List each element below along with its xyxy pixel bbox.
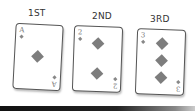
diamond-icon: [19, 34, 23, 38]
playing-card-three-of-diamonds[interactable]: 3 3: [135, 28, 186, 96]
playing-card-ace-of-diamonds[interactable]: A A: [12, 23, 63, 91]
diamond-icon: [52, 75, 56, 79]
diamond-pip-icon: [155, 71, 168, 84]
diamond-icon: [141, 40, 145, 44]
diamond-pip-icon: [155, 54, 168, 67]
card-label-2nd: 2ND: [92, 11, 112, 21]
card-corner-top: A: [19, 27, 25, 38]
card-corner-top: 3: [141, 32, 146, 43]
card-label-1st: 1ST: [28, 8, 46, 18]
diamond-icon: [78, 37, 82, 41]
diamond-pip-icon: [91, 67, 104, 80]
card-corner-bottom: A: [51, 76, 57, 87]
diamond-pip-icon: [156, 37, 169, 50]
card-corner-bottom: 2: [113, 78, 118, 89]
card-corner-bottom: 3: [176, 81, 181, 92]
card-label-3rd: 3RD: [150, 14, 170, 24]
diamond-pip-icon: [92, 37, 105, 50]
playing-card-two-of-diamonds[interactable]: 2 2: [72, 25, 123, 93]
card-corner-top: 2: [78, 29, 83, 40]
diamond-pip-icon: [31, 50, 44, 63]
bottom-divider-bar: [0, 106, 195, 111]
